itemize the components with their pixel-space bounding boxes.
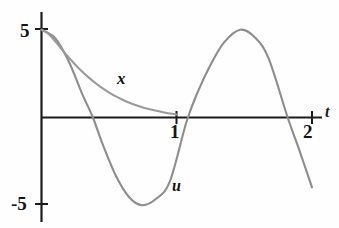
curve-x bbox=[42, 30, 177, 115]
y-tick-label-minus-5: -5 bbox=[11, 194, 27, 213]
figure-canvas: 5 -5 1 2 t x u bbox=[0, 0, 339, 228]
t-tick-label-2: 2 bbox=[303, 122, 313, 141]
y-tick-label-5: 5 bbox=[20, 21, 30, 40]
t-tick-label-1: 1 bbox=[170, 122, 180, 141]
t-axis-name-label: t bbox=[325, 104, 329, 120]
curve-x-label: x bbox=[117, 70, 126, 87]
curve-u-label: u bbox=[172, 178, 181, 194]
plot-svg bbox=[0, 0, 339, 228]
